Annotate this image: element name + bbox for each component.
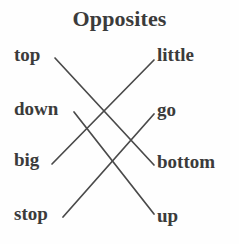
right-word-little[interactable]: little [157,45,194,65]
connector-line-down-up [74,112,154,214]
connector-line-big-little [52,60,154,164]
right-word-bottom[interactable]: bottom [157,152,215,172]
left-word-stop[interactable]: stop [14,204,48,224]
right-word-up[interactable]: up [157,206,178,226]
connector-line-stop-go [63,114,154,217]
right-word-go[interactable]: go [157,100,176,120]
left-word-down[interactable]: down [14,99,58,119]
left-word-top[interactable]: top [14,45,40,65]
opposites-worksheet: Opposites top down big stop little go bo… [0,0,239,244]
page-title: Opposites [0,7,239,31]
left-word-big[interactable]: big [14,150,39,170]
connector-line-top-bottom [55,58,154,165]
